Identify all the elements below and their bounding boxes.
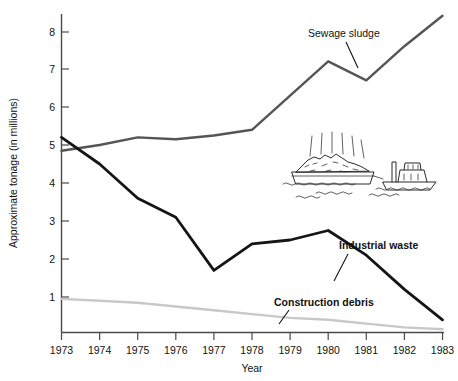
y-tick-label-8: 8 (49, 26, 55, 38)
annotation-industrial-waste: Industrial waste (334, 239, 419, 281)
line-chart: 8 7 6 5 4 3 2 1 Approximate tonage (in m… (0, 0, 458, 381)
leader-line-sewage-sludge (346, 42, 358, 68)
y-axis-tick-labels: 8 7 6 5 4 3 2 1 (49, 26, 55, 303)
refuse-texture-icon (305, 162, 358, 172)
tugboat-hull-icon (383, 182, 436, 190)
leader-line-industrial-waste (334, 254, 348, 281)
x-tick-label-1978: 1978 (240, 344, 264, 356)
x-tick-label-1974: 1974 (88, 344, 112, 356)
x-tick-label-1983: 1983 (431, 344, 455, 356)
x-axis-title: Year (241, 362, 263, 374)
tugboat-funnel-icon (392, 162, 396, 182)
y-tick-label-6: 6 (49, 101, 55, 113)
x-tick-label-1976: 1976 (164, 344, 188, 356)
x-tick-label-1975: 1975 (126, 344, 150, 356)
y-tick-label-1: 1 (49, 291, 55, 303)
barge-hull-icon (292, 172, 374, 184)
y-axis-ticks (62, 32, 70, 297)
tugboat-window-icon (404, 165, 418, 180)
y-axis-title: Approximate tonage (in millions) (7, 98, 19, 248)
y-tick-label-5: 5 (49, 139, 55, 151)
series-line-construction-debris (62, 299, 443, 329)
y-tick-label-7: 7 (49, 63, 55, 75)
tow-line-icon (374, 176, 383, 179)
series-line-industrial-waste (62, 137, 443, 319)
garbage-barge-illustration (283, 132, 436, 198)
annotation-sewage-sludge: Sewage sludge (308, 27, 380, 68)
y-tick-label-4: 4 (49, 177, 55, 189)
tugboat-cabin-icon (398, 170, 427, 182)
y-tick-label-3: 3 (49, 215, 55, 227)
refuse-heap-icon (296, 154, 369, 172)
x-tick-label-1979: 1979 (278, 344, 302, 356)
annotation-label-industrial-waste: Industrial waste (339, 239, 419, 251)
annotation-label-sewage-sludge: Sewage sludge (308, 27, 380, 39)
y-tick-label-2: 2 (49, 253, 55, 265)
chart-container: 8 7 6 5 4 3 2 1 Approximate tonage (in m… (0, 0, 458, 381)
series-line-sewage-sludge (62, 16, 443, 151)
x-tick-label-1981: 1981 (355, 344, 379, 356)
tugboat-wheelhouse-icon (404, 163, 421, 170)
x-tick-label-1973: 1973 (50, 344, 74, 356)
x-axis-ticks (62, 333, 443, 341)
series-lines (62, 16, 443, 330)
annotation-label-construction-debris: Construction debris (274, 296, 374, 308)
x-tick-label-1977: 1977 (202, 344, 226, 356)
x-axis-tick-labels: 1973 1974 1975 1976 1977 1978 1979 1980 … (50, 344, 455, 356)
x-tick-label-1982: 1982 (393, 344, 417, 356)
x-tick-label-1980: 1980 (317, 344, 341, 356)
